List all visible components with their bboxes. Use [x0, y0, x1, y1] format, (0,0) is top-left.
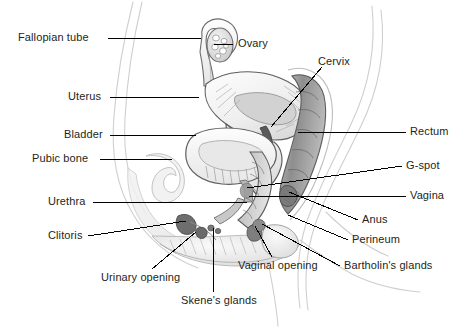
clitoris: [176, 214, 196, 234]
label-pubic-bone: Pubic bone: [32, 153, 88, 164]
label-g-spot: G-spot: [406, 160, 440, 171]
bartholins-gland: [253, 219, 265, 231]
label-vagina: Vagina: [410, 190, 444, 201]
label-clitoris: Clitoris: [48, 230, 83, 241]
label-bladder: Bladder: [64, 129, 103, 140]
pubic-bone: [146, 154, 184, 203]
label-vaginal-opening: Vaginal opening: [238, 260, 318, 271]
label-urethra: Urethra: [48, 196, 85, 207]
label-perineum: Perineum: [352, 234, 400, 245]
label-skenes-glands: Skene's glands: [181, 295, 257, 306]
skenes-glands: [208, 225, 221, 234]
label-fallopian-tube: Fallopian tube: [18, 32, 89, 43]
body-outline-perineal-fold: [268, 262, 278, 326]
ovary: [207, 28, 233, 62]
diagram-artwork: [0, 0, 472, 332]
perineum: [262, 225, 298, 258]
label-bartholins-glands: Bartholin's glands: [344, 260, 432, 271]
label-cervix: Cervix: [318, 56, 350, 67]
label-uterus: Uterus: [68, 91, 101, 102]
leader-line-perineum: [288, 215, 348, 240]
label-anus: Anus: [362, 214, 388, 225]
urinary-opening: [196, 227, 208, 238]
label-urinary-opening: Urinary opening: [101, 272, 180, 283]
label-ovary: Ovary: [238, 38, 268, 49]
label-rectum: Rectum: [410, 126, 449, 137]
anatomical-diagram: Fallopian tube Uterus Bladder Pubic bone…: [0, 0, 472, 332]
